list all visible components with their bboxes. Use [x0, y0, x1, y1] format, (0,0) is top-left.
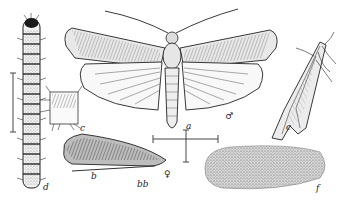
adult-moth-figure — [65, 9, 277, 128]
label-female-symbol: ♀ — [164, 170, 171, 179]
resting-moth-figure — [272, 32, 336, 140]
larva-scale-bar — [10, 73, 16, 132]
label-larva: d — [43, 183, 49, 192]
illustration-drawing — [0, 0, 349, 200]
label-resting-moth: c — [286, 123, 291, 132]
cocoon-figure — [205, 146, 325, 189]
illustration-plate: a ♂ c c b bb ♀ d f — [0, 0, 349, 200]
label-segment-detail: c — [80, 124, 85, 133]
wing-scale-line — [72, 166, 155, 171]
label-scale: bb — [137, 180, 149, 189]
label-forewing: b — [91, 172, 97, 181]
label-male-symbol: ♂ — [225, 112, 233, 121]
segment-detail-figure — [40, 86, 82, 131]
forewing-figure — [64, 134, 166, 166]
larva-figure — [17, 13, 46, 188]
label-cocoon: f — [316, 184, 319, 193]
label-adult: a — [186, 122, 191, 131]
